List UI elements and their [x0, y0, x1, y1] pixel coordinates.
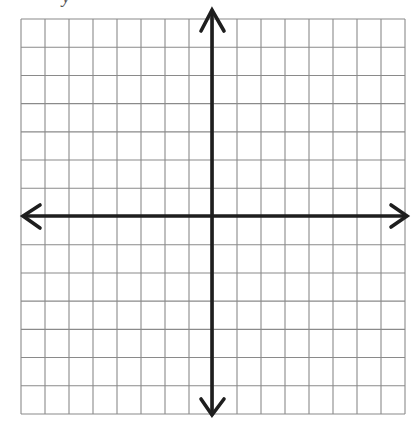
axes [23, 10, 407, 415]
coordinate-plane [0, 0, 414, 422]
